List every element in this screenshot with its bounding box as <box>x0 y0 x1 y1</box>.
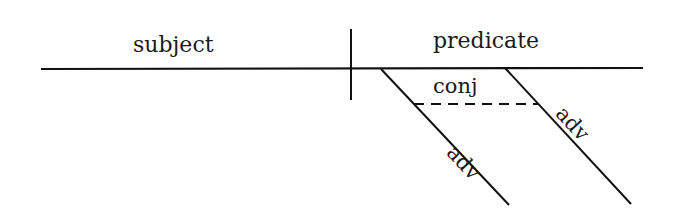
baseline <box>41 68 643 69</box>
subject-label: subject <box>133 34 214 56</box>
predicate-label: predicate <box>433 30 539 52</box>
conjunction-label: conj <box>433 76 477 97</box>
sentence-diagram: subject predicate conj adv adv <box>0 0 674 219</box>
